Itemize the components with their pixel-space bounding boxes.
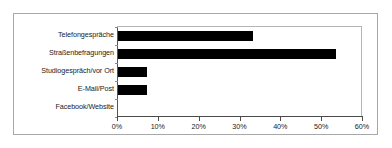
x-axis-tick xyxy=(240,117,241,121)
bar xyxy=(118,85,147,95)
x-axis-tick-label: 50% xyxy=(301,122,341,131)
x-axis-tick-label: 20% xyxy=(179,122,219,131)
category-axis-tick xyxy=(115,81,118,82)
x-axis-tick xyxy=(362,117,363,121)
x-axis-tick xyxy=(199,117,200,121)
category-axis-tick xyxy=(115,45,118,46)
x-axis-ticks xyxy=(117,117,363,121)
x-axis-tick xyxy=(158,117,159,121)
x-axis-tick xyxy=(280,117,281,121)
x-axis-tick-label: 60% xyxy=(342,122,382,131)
category-label: Facebook/Website xyxy=(14,103,114,111)
category-label: Straßenbefragungen xyxy=(14,49,114,57)
x-axis-tick-label: 40% xyxy=(260,122,300,131)
category-label: Studiogespräch/vor Ort xyxy=(14,67,114,75)
x-axis-tick xyxy=(117,117,118,121)
category-label: Telefongespräche xyxy=(14,31,114,39)
bar xyxy=(118,31,253,41)
bar xyxy=(118,49,336,59)
chart-frame: TelefongesprächeStraßenbefragungenStudio… xyxy=(13,13,378,135)
category-label: E-Mail/Post xyxy=(14,85,114,93)
category-axis-tick xyxy=(115,63,118,64)
category-axis-labels: TelefongesprächeStraßenbefragungenStudio… xyxy=(14,26,118,116)
category-axis-tick xyxy=(115,27,118,28)
bar xyxy=(118,67,147,77)
x-axis-tick-label: 30% xyxy=(220,122,260,131)
x-axis-tick-label: 10% xyxy=(138,122,178,131)
category-axis-tick xyxy=(115,99,118,100)
x-axis-tick-label: 0% xyxy=(97,122,137,131)
plot-area xyxy=(117,26,362,116)
x-axis-tick xyxy=(321,117,322,121)
x-axis-tick-labels: 0%10%20%30%40%50%60% xyxy=(117,122,363,134)
